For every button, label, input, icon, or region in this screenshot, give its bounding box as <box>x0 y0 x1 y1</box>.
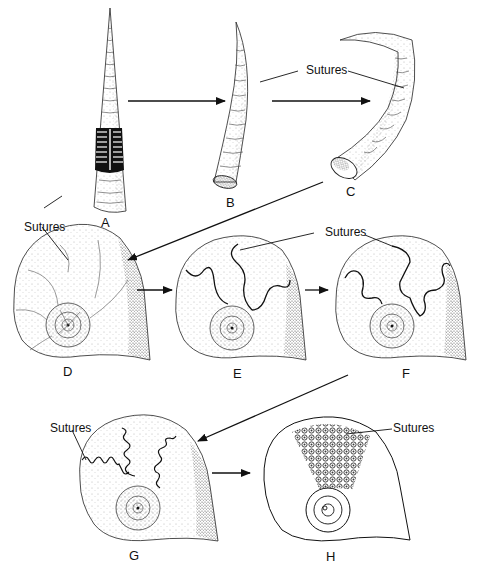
caption-a: A <box>101 216 110 229</box>
shell-d <box>14 224 150 360</box>
caption-g: G <box>129 549 139 562</box>
caption-e: E <box>233 367 242 380</box>
suture-evolution-diagram <box>0 0 486 571</box>
shell-h <box>264 417 410 541</box>
sutures-label-g: Sutures <box>50 422 91 434</box>
shell-f <box>336 236 466 360</box>
shell-e <box>176 236 306 360</box>
caption-f: F <box>402 367 410 380</box>
shell-g <box>80 415 218 541</box>
caption-c: C <box>346 185 355 198</box>
sutures-label-bc: Sutures <box>306 64 347 76</box>
sutures-label-ad: Sutures <box>24 221 65 233</box>
shell-c <box>327 33 415 183</box>
sutures-label-ef: Sutures <box>325 226 366 238</box>
shell-a <box>94 8 126 212</box>
shell-b <box>212 22 248 190</box>
sutures-label-h: Sutures <box>393 422 434 434</box>
caption-h: H <box>326 550 335 563</box>
caption-d: D <box>63 365 72 378</box>
caption-b: B <box>226 196 235 209</box>
